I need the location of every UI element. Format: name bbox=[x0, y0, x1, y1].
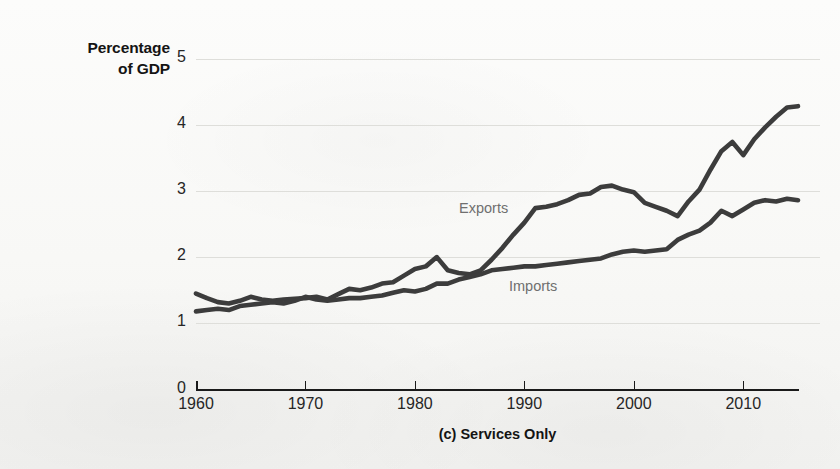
figure-caption: (c) Services Only bbox=[196, 426, 799, 442]
figure-panel: Percentage of GDP Exports Imports (c) Se… bbox=[0, 0, 840, 469]
x-tick-label-1990: 1990 bbox=[494, 395, 554, 413]
x-tick-1960 bbox=[196, 381, 197, 389]
y-tick-label-5: 5 bbox=[160, 48, 186, 66]
series-label-exports: Exports bbox=[459, 200, 508, 216]
y-tick-label-1: 1 bbox=[160, 312, 186, 330]
x-tick-1980 bbox=[415, 381, 416, 389]
x-tick-label-1970: 1970 bbox=[275, 395, 335, 413]
y-tick-label-2: 2 bbox=[160, 246, 186, 264]
x-tick-2010 bbox=[743, 381, 744, 389]
x-tick-label-1960: 1960 bbox=[166, 395, 226, 413]
x-tick-1970 bbox=[305, 381, 306, 389]
x-tick-label-2010: 2010 bbox=[713, 395, 773, 413]
x-tick-1990 bbox=[524, 381, 525, 389]
y-tick-label-4: 4 bbox=[160, 114, 186, 132]
y-tick-label-0: 0 bbox=[160, 379, 186, 397]
x-tick-label-2000: 2000 bbox=[604, 395, 664, 413]
series-label-imports: Imports bbox=[509, 278, 557, 294]
y-tick-label-3: 3 bbox=[160, 180, 186, 198]
x-tick-label-1980: 1980 bbox=[385, 395, 445, 413]
x-tick-2000 bbox=[634, 381, 635, 389]
